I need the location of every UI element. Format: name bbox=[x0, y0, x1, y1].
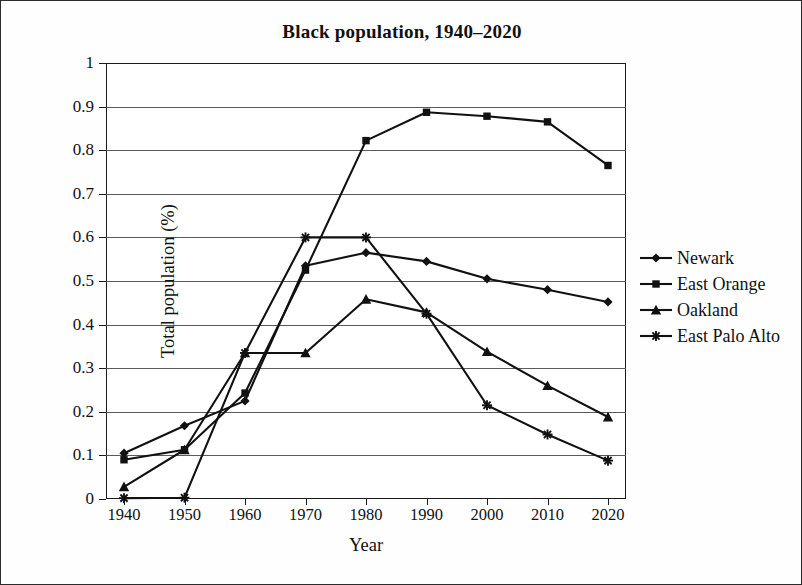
series-east-palo-alto bbox=[119, 232, 613, 503]
y-tick-mark bbox=[99, 63, 106, 64]
cross-icon bbox=[637, 326, 675, 346]
square-marker bbox=[423, 109, 430, 116]
y-tick-label: 0.2 bbox=[34, 402, 94, 422]
cross-marker bbox=[651, 331, 661, 341]
legend-item-oakland[interactable]: Oakland bbox=[637, 297, 799, 323]
square-marker bbox=[652, 280, 659, 287]
series-east-orange bbox=[120, 109, 611, 464]
y-tick-mark bbox=[99, 325, 106, 326]
diamond-marker bbox=[180, 421, 189, 430]
diamond-icon bbox=[637, 248, 675, 268]
legend-label: East Palo Alto bbox=[675, 326, 780, 347]
legend-item-east-orange[interactable]: East Orange bbox=[637, 271, 799, 297]
series-oakland bbox=[119, 294, 613, 491]
square-marker bbox=[120, 456, 127, 463]
cross-marker bbox=[422, 309, 432, 319]
x-axis-title: Year bbox=[106, 535, 626, 556]
series-plot bbox=[106, 63, 626, 499]
y-tick-label: 0 bbox=[34, 489, 94, 509]
x-tick-label: 1980 bbox=[350, 505, 383, 525]
diamond-marker bbox=[651, 253, 660, 262]
diamond-marker bbox=[482, 274, 491, 283]
x-tick-label: 1990 bbox=[410, 505, 443, 525]
series-newark bbox=[119, 248, 612, 458]
triangle-marker bbox=[361, 294, 371, 304]
y-tick-label: 0.4 bbox=[34, 315, 94, 335]
triangle-icon bbox=[637, 300, 675, 320]
square-marker bbox=[241, 389, 248, 396]
y-tick-mark bbox=[99, 237, 106, 238]
legend-label: East Orange bbox=[675, 274, 765, 295]
y-tick-label: 0.8 bbox=[34, 140, 94, 160]
y-tick-label: 0.5 bbox=[34, 271, 94, 291]
series-line bbox=[124, 299, 608, 486]
cross-marker bbox=[240, 348, 250, 358]
y-tick-label: 0.9 bbox=[34, 97, 94, 117]
cross-marker bbox=[603, 456, 613, 466]
x-tick-label: 1950 bbox=[168, 505, 201, 525]
x-tick-label: 1960 bbox=[229, 505, 262, 525]
triangle-marker bbox=[482, 346, 492, 356]
y-tick-mark bbox=[99, 194, 106, 195]
y-tick-mark bbox=[99, 412, 106, 413]
legend-label: Oakland bbox=[675, 300, 738, 321]
diamond-marker bbox=[361, 248, 370, 257]
chart-figure: Black population, 1940–2020 10.90.80.70.… bbox=[0, 0, 802, 585]
diamond-marker bbox=[543, 285, 552, 294]
cross-marker bbox=[301, 232, 311, 242]
square-marker bbox=[604, 162, 611, 169]
triangle-marker bbox=[119, 482, 129, 492]
y-tick-label: 0.6 bbox=[34, 227, 94, 247]
x-tick-label: 2010 bbox=[531, 505, 564, 525]
y-tick-mark bbox=[99, 455, 106, 456]
cross-marker bbox=[361, 232, 371, 242]
diamond-marker bbox=[603, 297, 612, 306]
triangle-marker bbox=[603, 412, 613, 422]
y-tick-label: 1 bbox=[34, 53, 94, 73]
y-tick-mark bbox=[99, 499, 106, 500]
legend-item-newark[interactable]: Newark bbox=[637, 245, 799, 271]
x-tick-label: 2020 bbox=[592, 505, 625, 525]
y-tick-label: 0.3 bbox=[34, 358, 94, 378]
cross-marker bbox=[180, 493, 190, 503]
cross-marker bbox=[482, 400, 492, 410]
y-tick-label: 0.1 bbox=[34, 445, 94, 465]
series-line bbox=[124, 253, 608, 454]
series-line bbox=[124, 112, 608, 459]
square-icon bbox=[637, 274, 675, 294]
chart-title: Black population, 1940–2020 bbox=[1, 21, 802, 43]
y-tick-label: 0.7 bbox=[34, 184, 94, 204]
series-line bbox=[124, 237, 608, 498]
triangle-marker bbox=[542, 380, 552, 390]
cross-marker bbox=[543, 429, 553, 439]
y-tick-mark bbox=[99, 107, 106, 108]
y-tick-mark bbox=[99, 281, 106, 282]
legend-item-east-palo-alto[interactable]: East Palo Alto bbox=[637, 323, 799, 349]
diamond-marker bbox=[240, 396, 249, 405]
x-tick-label: 2000 bbox=[471, 505, 504, 525]
square-marker bbox=[362, 137, 369, 144]
chart-legend: NewarkEast OrangeOaklandEast Palo Alto bbox=[637, 245, 799, 349]
x-tick-label: 1970 bbox=[289, 505, 322, 525]
square-marker bbox=[544, 118, 551, 125]
plot-area: 10.90.80.70.60.50.40.30.20.10 1940195019… bbox=[106, 63, 626, 499]
square-marker bbox=[302, 266, 309, 273]
cross-marker bbox=[119, 493, 129, 503]
diamond-marker bbox=[422, 257, 431, 266]
y-axis-title: Total population (%) bbox=[158, 131, 179, 431]
y-tick-mark bbox=[99, 368, 106, 369]
square-marker bbox=[483, 112, 490, 119]
legend-label: Newark bbox=[675, 248, 734, 269]
y-tick-mark bbox=[99, 150, 106, 151]
x-tick-label: 1940 bbox=[108, 505, 141, 525]
